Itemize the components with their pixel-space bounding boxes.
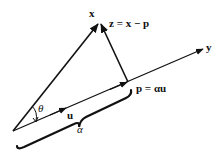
label-z: z = x − p [109,17,149,29]
projection-diagram: x z = x − p y p = αu u θ α [0,0,223,157]
vector-z-arrow [101,24,128,82]
vector-x-arrow [13,24,98,131]
vector-u-arrow [50,108,66,115]
vector-p-arrow [110,82,127,89]
theta-arc-arrowhead [33,117,38,122]
label-x: x [89,7,95,19]
label-u: u [67,109,73,121]
label-p: p = αu [136,82,166,94]
label-theta: θ [38,102,44,114]
label-alpha: α [77,123,83,135]
theta-arc [32,106,37,121]
line-y-arrow [13,49,203,131]
label-y: y [206,41,212,53]
